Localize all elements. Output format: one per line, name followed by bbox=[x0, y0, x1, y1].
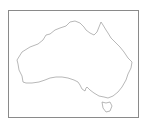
mainland-outline bbox=[17, 21, 132, 98]
tasmania-outline bbox=[102, 102, 112, 112]
australia-outline-map bbox=[0, 0, 146, 127]
